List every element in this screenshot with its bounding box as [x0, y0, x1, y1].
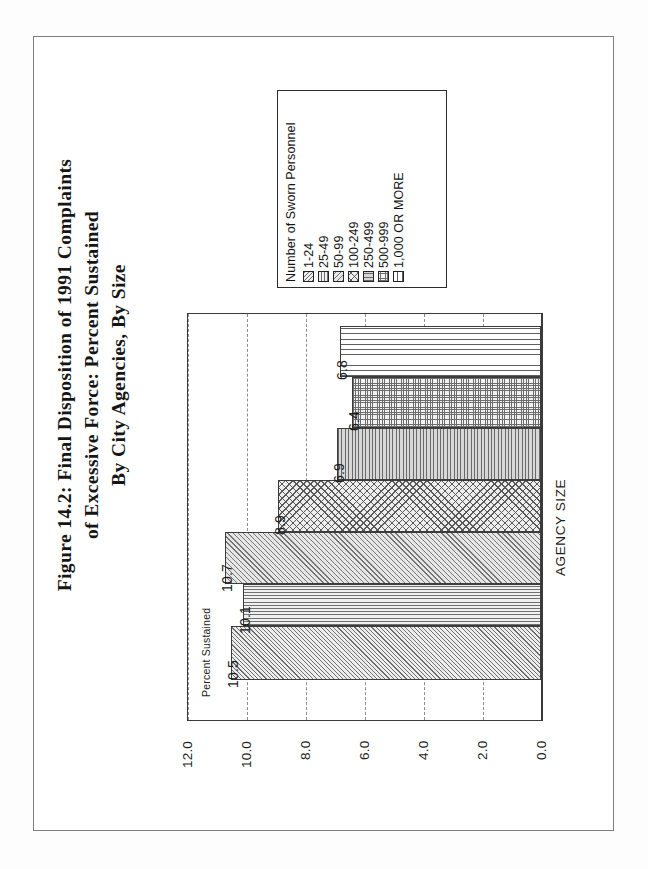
- legend-item-100-249: 100-249: [346, 98, 361, 282]
- legend-label-50-99: 50-99: [332, 236, 346, 268]
- bar-500-999: [352, 377, 541, 428]
- tick-label-8-0: 8.0: [298, 741, 313, 760]
- bar-100-249: [278, 480, 541, 532]
- bar-1-24: [231, 626, 541, 680]
- figure-title-line-2: of Excessive Force: Percent Sustained: [79, 211, 106, 539]
- figure-title-line-3: By City Agencies, By Size: [106, 264, 133, 486]
- legend-swatch-icon-50-99: [333, 271, 344, 282]
- tick-label-6-0: 6.0: [357, 741, 372, 760]
- legend-swatch-icon-1-24: [303, 271, 314, 282]
- bar-1000-or-more: [340, 326, 541, 377]
- figure-title: Figure 14.2: Final Disposition of 1991 C…: [52, 95, 132, 655]
- bar-value-50-99: 10.7: [219, 564, 235, 592]
- legend-swatch-icon-250-499: [363, 271, 374, 282]
- legend-item-1000-or-more: 1,000 OR MORE: [391, 98, 406, 282]
- value-axis-baseline: [541, 314, 542, 720]
- legend-swatch-icon-25-49: [318, 271, 329, 282]
- bar-50-99: [225, 532, 541, 584]
- plot-area: 6.8 6.4 6.9 8.9 10.7 10.1 10.5: [187, 313, 543, 721]
- legend-swatch-icon-100-249: [348, 271, 359, 282]
- legend-label-250-499: 250-499: [362, 221, 376, 268]
- legend-label-500-999: 500-999: [377, 221, 391, 268]
- category-axis-title: AGENCY SIZE: [553, 479, 568, 576]
- legend-title: Number of Sworn Personnel: [284, 98, 298, 282]
- value-axis-title: Percent Sustained: [200, 608, 212, 697]
- legend-item-500-999: 500-999: [376, 98, 391, 282]
- legend: Number of Sworn Personnel 1-24 25-49 50-…: [277, 90, 447, 288]
- legend-content: Number of Sworn Personnel 1-24 25-49 50-…: [278, 91, 448, 289]
- tick-label-2-0: 2.0: [475, 741, 490, 760]
- bar-value-500-999: 6.4: [346, 411, 362, 431]
- bar-value-100-249: 8.9: [272, 515, 288, 535]
- legend-label-100-249: 100-249: [347, 221, 361, 268]
- bar-value-1-24: 10.5: [225, 660, 241, 688]
- tick-label-0-0: 0.0: [534, 741, 549, 760]
- legend-label-1-24: 1-24: [302, 243, 316, 268]
- legend-item-250-499: 250-499: [361, 98, 376, 282]
- tick-label-4-0: 4.0: [416, 741, 431, 760]
- bar-value-1000-or-more: 6.8: [334, 360, 350, 380]
- bar-25-49: [243, 584, 541, 626]
- bar-value-250-499: 6.9: [331, 463, 347, 483]
- scanned-figure-page: Figure 14.2: Final Disposition of 1991 C…: [0, 0, 648, 869]
- legend-label-1000-or-more: 1,000 OR MORE: [392, 172, 406, 268]
- tick-label-12-0: 12.0: [180, 741, 195, 768]
- legend-swatch-icon-500-999: [378, 271, 389, 282]
- bar-value-25-49: 10.1: [237, 606, 253, 634]
- legend-item-25-49: 25-49: [316, 98, 331, 282]
- legend-label-25-49: 25-49: [317, 236, 331, 268]
- figure-title-container: Figure 14.2: Final Disposition of 1991 C…: [52, 0, 132, 95]
- legend-swatch-icon-1000-or-more: [393, 271, 404, 282]
- tick-label-10-0: 10.0: [239, 741, 254, 768]
- gridline-12: [188, 314, 189, 720]
- legend-item-50-99: 50-99: [331, 98, 346, 282]
- legend-item-1-24: 1-24: [301, 98, 316, 282]
- bar-250-999: [337, 428, 541, 480]
- figure-title-line-1: Figure 14.2: Final Disposition of 1991 C…: [52, 159, 79, 592]
